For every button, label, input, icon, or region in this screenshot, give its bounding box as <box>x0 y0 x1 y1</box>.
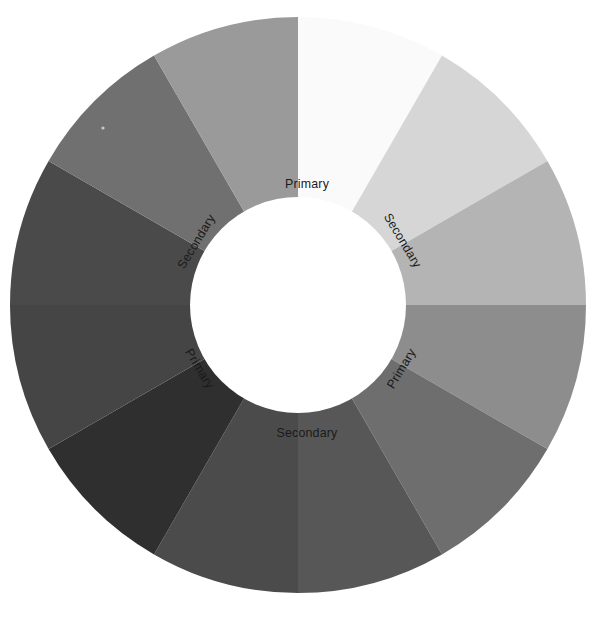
wheel-label-secondary-4: Secondary <box>276 426 338 440</box>
noise-speck <box>101 126 104 129</box>
wheel-inner-hub <box>190 197 406 413</box>
wheel-label-primary-1: Primary <box>285 177 330 191</box>
color-wheel-svg: PrimarySecondaryPrimarySecondaryPrimaryS… <box>0 0 600 625</box>
color-wheel-figure: PrimarySecondaryPrimarySecondaryPrimaryS… <box>0 0 600 625</box>
